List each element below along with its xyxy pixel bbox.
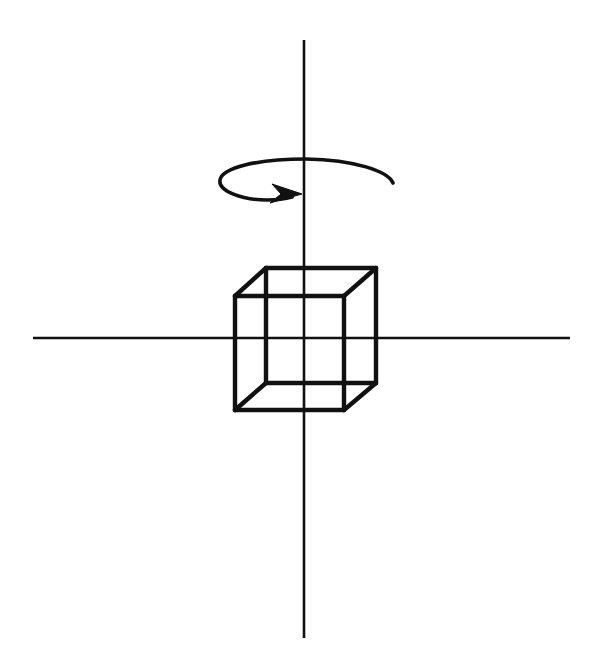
rotating-cube-diagram <box>0 0 605 656</box>
figure-canvas: Wireframe cube rotating about a vertical… <box>0 0 605 656</box>
canvas-background <box>0 0 605 656</box>
